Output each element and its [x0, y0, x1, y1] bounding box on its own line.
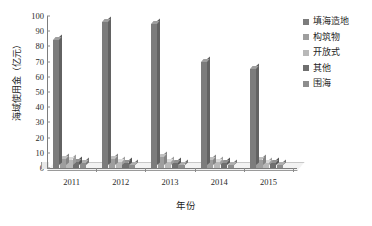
x-axis-tick-mark [244, 168, 245, 172]
bar [263, 163, 269, 168]
bar [80, 163, 86, 168]
y-axis-tick-mark [47, 16, 50, 17]
legend-item[interactable]: 构筑物 [303, 30, 372, 46]
y-axis-tick-label: 70 [36, 57, 45, 66]
bar [178, 165, 184, 168]
bar [172, 163, 178, 168]
legend-item-label: 构筑物 [313, 33, 340, 42]
bar [277, 165, 283, 168]
bar-face [80, 163, 86, 168]
y-axis-tick-label: 100 [31, 12, 44, 21]
bar [129, 165, 135, 168]
y-axis-tick-label: 60 [36, 73, 45, 82]
y-axis-tick-mark [47, 122, 50, 123]
bar [228, 165, 234, 168]
y-axis-tick-mark [47, 168, 50, 169]
plot-area [47, 16, 293, 168]
bar-side [108, 17, 111, 165]
legend-swatch-icon [303, 34, 309, 40]
legend-swatch-icon [303, 50, 309, 56]
bar-group [151, 16, 184, 168]
bar-face [151, 24, 157, 168]
y-axis-tick-label: 20 [36, 133, 45, 142]
y-axis-ticks: 0102030405060708090100 [0, 16, 44, 168]
bar [270, 163, 276, 168]
legend-item-label: 填海造地 [313, 17, 349, 26]
x-axis-tick-mark [195, 168, 196, 172]
y-axis-tick-mark [47, 76, 50, 77]
bar [250, 69, 256, 168]
legend-swatch-icon [303, 81, 309, 87]
bar-group [201, 16, 234, 168]
bar [53, 40, 59, 168]
x-axis-tick-label: 2014 [199, 178, 239, 187]
legend-item[interactable]: 填海造地 [303, 14, 372, 30]
bar-face [270, 163, 276, 168]
legend-item[interactable]: 其他 [303, 61, 372, 77]
chart-legend: 填海造地构筑物开放式其他围海 [303, 14, 372, 92]
bar-face [53, 40, 59, 168]
y-axis-tick-label: 10 [36, 149, 45, 158]
bar [201, 62, 207, 168]
legend-swatch-icon [303, 19, 309, 25]
bar-face [178, 165, 184, 168]
bar-face [129, 165, 135, 168]
chart-container: 海域使用金（亿元） 0102030405060708090100 年份 填海造地… [0, 0, 372, 226]
bar [102, 22, 108, 168]
bar-face [277, 165, 283, 168]
bar-face [102, 22, 108, 168]
x-axis-tick-label: 2013 [150, 178, 190, 187]
y-axis-tick-label: 90 [36, 27, 45, 36]
bar-group [102, 16, 135, 168]
x-axis-tick-label: 2012 [101, 178, 141, 187]
y-axis-tick-mark [47, 92, 50, 93]
legend-swatch-icon [303, 65, 309, 71]
bar-face [221, 163, 227, 168]
legend-item-label: 围海 [313, 79, 331, 88]
bar-side [207, 56, 210, 165]
y-axis-tick-mark [47, 61, 50, 62]
y-axis-tick-label: 30 [36, 118, 45, 127]
bar [151, 24, 157, 168]
x-axis-tick-mark [145, 168, 146, 172]
legend-item-label: 开放式 [313, 48, 340, 57]
bar-face [250, 69, 256, 168]
y-axis-tick-label: 40 [36, 103, 45, 112]
y-axis-tick-mark [47, 107, 50, 108]
bar-side [157, 18, 160, 165]
legend-item-label: 其他 [313, 64, 331, 73]
bar-side [59, 35, 62, 165]
x-axis-tick-mark [293, 168, 294, 172]
y-axis-tick-mark [47, 31, 50, 32]
bar-group [250, 16, 283, 168]
bar-face [228, 165, 234, 168]
x-axis-tick-label: 2011 [52, 178, 92, 187]
bar-face [263, 163, 269, 168]
bar-group [53, 16, 86, 168]
bar-side [256, 64, 259, 165]
bar-face [172, 163, 178, 168]
legend-item[interactable]: 开放式 [303, 45, 372, 61]
y-axis-tick-mark [47, 152, 50, 153]
y-axis-tick-label: 80 [36, 42, 45, 51]
bar-top [201, 59, 210, 62]
bar-face [201, 62, 207, 168]
x-axis-title: 年份 [0, 198, 372, 212]
bar [122, 163, 128, 168]
x-axis-line [47, 168, 297, 169]
y-axis-tick-mark [47, 137, 50, 138]
x-axis-tick-mark [96, 168, 97, 172]
bar [221, 163, 227, 168]
x-axis-tick-label: 2015 [248, 178, 288, 187]
y-axis-tick-mark [47, 46, 50, 47]
legend-item[interactable]: 围海 [303, 76, 372, 92]
bar-face [122, 163, 128, 168]
y-axis-tick-label: 50 [36, 88, 45, 97]
